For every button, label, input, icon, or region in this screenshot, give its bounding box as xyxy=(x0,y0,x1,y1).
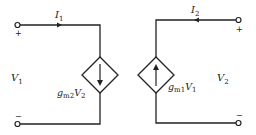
two-port-circuit-diagram: I1 + − V1 gm2V2 I2 + − V2 gm1V1 xyxy=(0,0,256,135)
right-bottom-terminal-icon[interactable] xyxy=(236,121,241,126)
right-minus-sign: − xyxy=(236,111,243,120)
right-source-up-arrow-icon xyxy=(153,64,159,70)
right-top-wire xyxy=(156,20,236,57)
right-plus-sign: + xyxy=(236,25,243,34)
left-voltage-label: V1 xyxy=(11,72,23,86)
right-bottom-wire xyxy=(156,93,236,123)
right-current-arrow-icon xyxy=(194,18,199,23)
left-current-arrow-icon xyxy=(57,23,62,28)
left-current-label: I1 xyxy=(54,9,63,23)
right-current-label: I2 xyxy=(190,4,199,18)
right-source-label: gm1V1 xyxy=(168,81,197,94)
right-voltage-label: V2 xyxy=(217,72,229,86)
right-port: I2 + − V2 gm1V1 xyxy=(138,4,243,126)
left-port: I1 + − V1 gm2V2 xyxy=(11,9,118,127)
left-minus-sign: − xyxy=(15,112,22,121)
right-top-terminal-icon[interactable] xyxy=(236,18,241,23)
left-top-wire xyxy=(20,25,100,57)
left-top-terminal-icon[interactable] xyxy=(15,23,20,28)
left-source-label: gm2V2 xyxy=(57,87,86,100)
left-plus-sign: + xyxy=(15,29,22,38)
left-bottom-terminal-icon[interactable] xyxy=(15,122,20,127)
left-source-down-arrow-icon xyxy=(97,80,103,86)
